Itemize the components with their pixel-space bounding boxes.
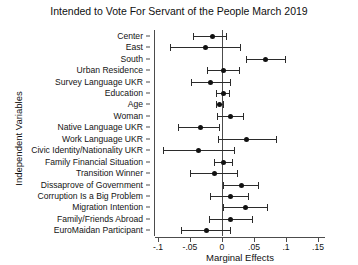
ci-cap-lower xyxy=(207,67,208,74)
y-tick xyxy=(146,58,150,59)
ci-cap-lower xyxy=(191,79,192,86)
y-tick-label: Work Language UKR xyxy=(62,134,143,143)
ci-cap-upper xyxy=(258,182,259,189)
y-tick xyxy=(146,47,150,48)
y-tick-label: Civic Identity/Nationality UKR xyxy=(31,146,143,155)
x-tick-label: -.1 xyxy=(153,242,163,252)
ci-cap-lower xyxy=(178,124,179,131)
ci-cap-upper xyxy=(239,67,240,74)
ci-cap-upper xyxy=(240,44,241,51)
y-tick xyxy=(146,115,150,116)
y-tick-label: East xyxy=(126,43,143,52)
ci-cap-lower xyxy=(223,204,224,211)
ci-cap-upper xyxy=(226,33,227,40)
ci-cap-upper xyxy=(237,170,238,177)
y-tick-label: Education xyxy=(105,89,143,98)
y-tick-label: Age xyxy=(128,100,143,109)
ci-cap-upper xyxy=(285,56,286,63)
y-tick-label: Corruption Is a Big Problem xyxy=(37,192,143,201)
y-tick xyxy=(146,150,150,151)
ci-cap-lower xyxy=(217,113,218,120)
y-tick-label: Survey Language UKR xyxy=(55,77,143,86)
coefficient-plot-figure: Intended to Vote For Servant of the Peop… xyxy=(0,0,358,265)
y-tick-label: Center xyxy=(117,31,143,40)
ci-cap-lower xyxy=(216,90,217,97)
y-tick-label: Migration Intention xyxy=(72,203,143,212)
y-tick xyxy=(146,92,150,93)
ci-cap-upper xyxy=(219,124,220,131)
coefficient-point xyxy=(243,205,248,210)
y-tick xyxy=(146,81,150,82)
ci-cap-lower xyxy=(223,182,224,189)
ci-cap-upper xyxy=(243,113,244,120)
coefficient-point xyxy=(228,217,233,222)
y-tick-label: Transition Winner xyxy=(76,169,143,178)
chart-title: Intended to Vote For Servant of the Peop… xyxy=(0,5,358,17)
ci-cap-upper xyxy=(248,193,249,200)
x-tick-label: 0 xyxy=(220,242,225,252)
coefficient-point xyxy=(208,80,213,85)
ci-cap-lower xyxy=(210,193,211,200)
y-tick-label: South xyxy=(121,54,143,63)
y-tick xyxy=(146,127,150,128)
y-tick-label: EuroMaidan Participant xyxy=(54,226,143,235)
x-tick-label: -.05 xyxy=(183,242,198,252)
y-tick xyxy=(146,173,150,174)
coefficient-point xyxy=(210,34,215,39)
ci-cap-upper xyxy=(252,216,253,223)
coefficient-point xyxy=(263,57,268,62)
y-tick xyxy=(146,207,150,208)
y-tick xyxy=(146,104,150,105)
coefficient-point xyxy=(204,228,209,233)
y-tick xyxy=(146,35,150,36)
y-axis-labels: CenterEastSouthUrban ResidenceSurvey Lan… xyxy=(0,30,150,236)
ci-cap-upper xyxy=(234,147,235,154)
y-tick xyxy=(146,230,150,231)
coefficient-point xyxy=(244,137,249,142)
coefficient-point xyxy=(221,68,226,73)
ci-cap-upper xyxy=(276,136,277,143)
x-axis-line xyxy=(155,237,325,238)
ci-cap-lower xyxy=(193,33,194,40)
ci-cap-lower xyxy=(163,147,164,154)
coefficient-point xyxy=(239,183,244,188)
ci-cap-lower xyxy=(246,56,247,63)
ci-cap-upper xyxy=(267,204,268,211)
x-tick-label: .15 xyxy=(312,242,324,252)
ci-cap-lower xyxy=(218,136,219,143)
plot-area xyxy=(155,30,325,236)
coefficient-point xyxy=(203,45,208,50)
coefficient-point xyxy=(228,114,233,119)
ci-cap-upper xyxy=(232,159,233,166)
y-tick xyxy=(146,195,150,196)
ci-cap-upper xyxy=(229,90,230,97)
x-axis-title: Marginal Effects xyxy=(155,252,325,263)
coefficient-point xyxy=(198,125,203,130)
y-tick xyxy=(146,161,150,162)
coefficient-point xyxy=(221,160,226,165)
ci-cap-upper xyxy=(223,101,224,108)
y-tick xyxy=(146,184,150,185)
ci-cap-lower xyxy=(181,227,182,234)
ci-cap-upper xyxy=(230,79,231,86)
y-tick-label: Woman xyxy=(114,112,143,121)
ci-cap-lower xyxy=(170,44,171,51)
ci-cap-lower xyxy=(209,216,210,223)
y-tick-label: Family Financial Situation xyxy=(45,157,143,166)
y-tick xyxy=(146,70,150,71)
y-tick-label: Urban Residence xyxy=(77,66,143,75)
y-tick xyxy=(146,218,150,219)
ci-cap-lower xyxy=(214,159,215,166)
y-tick xyxy=(146,138,150,139)
y-tick-label: Dissaprove of Government xyxy=(41,180,143,189)
coefficient-point xyxy=(228,194,233,199)
coefficient-point xyxy=(221,91,226,96)
coefficient-point xyxy=(196,148,201,153)
x-tick-label: .1 xyxy=(282,242,289,252)
ci-cap-lower xyxy=(190,170,191,177)
y-tick-label: Family/Friends Abroad xyxy=(57,215,143,224)
ci-cap-upper xyxy=(230,227,231,234)
y-tick-label: Native Language UKR xyxy=(57,123,143,132)
x-tick-label: .05 xyxy=(248,242,260,252)
coefficient-point xyxy=(212,171,217,176)
